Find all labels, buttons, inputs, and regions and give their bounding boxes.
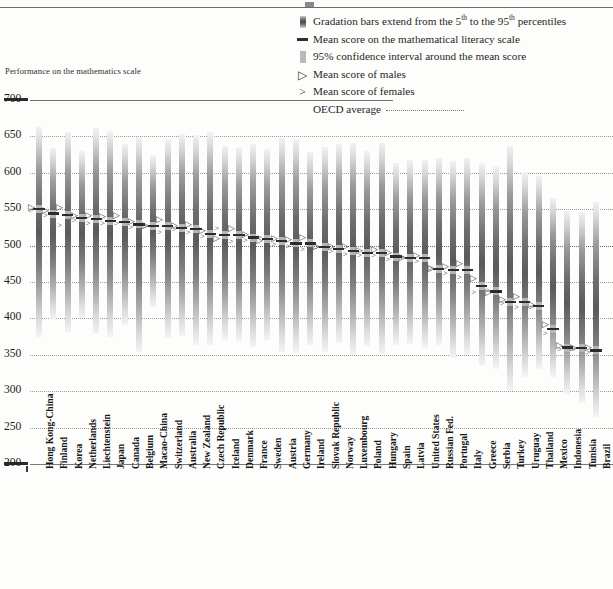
y-axis-tick-500: 500 (4, 238, 30, 251)
x-axis-label-iceland: Iceland (230, 439, 241, 469)
x-axis-label-poland: Poland (372, 440, 383, 469)
x-axis-label-switzerland: Switzerland (173, 420, 184, 469)
female-mean-marker: > (528, 303, 533, 312)
x-axis-label-luxembourg: Luxembourg (358, 416, 369, 469)
gradation-bar (150, 156, 156, 307)
gradation-bar (36, 127, 42, 337)
legend-label-gradation-bars: Gradation bars extend from the 5th to th… (312, 13, 566, 31)
legend-text-part-1: Gradation bars extend from the 5 (313, 15, 461, 27)
gradation-bar (50, 148, 56, 320)
female-mean-marker: > (57, 221, 62, 230)
mean-score-marker (419, 257, 430, 259)
gradation-bar (122, 144, 128, 325)
gradation-bar (222, 146, 228, 340)
female-mean-marker: > (328, 247, 333, 256)
female-mean-marker: > (186, 228, 191, 237)
mean-score-marker (533, 305, 544, 307)
mean-score-marker (490, 290, 501, 292)
female-mean-marker: > (314, 243, 319, 252)
female-mean-marker: > (557, 345, 562, 354)
x-axis-label-macao-china: Macao-China (158, 413, 169, 469)
legend-text-part-3: percentiles (515, 15, 566, 27)
x-axis-label-brazil: Brazil (601, 444, 612, 469)
gradation-bar (193, 135, 199, 345)
y-axis-tick-650: 650 (4, 128, 30, 141)
x-axis-label-portugal: Portugal (458, 433, 469, 469)
female-mean-marker: > (171, 225, 176, 234)
legend-item-males: ▷ Mean score of males (293, 66, 613, 84)
y-axis-tick-700: 700 (4, 92, 30, 105)
x-axis-label-indonesia: Indonesia (572, 429, 583, 469)
female-mean-marker: > (286, 242, 291, 251)
chart-plot-area: ▷>▷>▷>▷>▷>▷>▷>▷>▷>▷>▷>▷>▷>▷>▷>▷>▷>▷>▷>▷>… (30, 100, 613, 464)
gradation-bar (65, 132, 71, 331)
x-axis-label-norway: Norway (344, 436, 355, 469)
legend-label-confidence-interval: 95% confidence interval around the mean … (312, 48, 526, 66)
gradation-bar (250, 144, 256, 346)
female-mean-marker: > (471, 288, 476, 297)
x-axis-label-germany: Germany (301, 430, 312, 469)
y-axis-tick-550: 550 (4, 201, 30, 214)
x-axis-label-hungary: Hungary (387, 432, 398, 469)
female-glyph: > (299, 86, 306, 98)
legend-label-males: Mean score of males (312, 66, 406, 84)
gridline (30, 428, 613, 429)
legend-item-females: > Mean score of females (293, 83, 613, 101)
legend-item-gradation-bars: Gradation bars extend from the 5th to th… (293, 13, 613, 31)
gradation-bar (507, 146, 513, 391)
male-mean-marker: ▷ (156, 215, 163, 224)
x-axis-label-liechtenstein: Liechtenstein (101, 414, 112, 469)
mean-line-swatch (293, 31, 312, 49)
x-axis-label-australia: Australia (187, 431, 198, 469)
female-mean-marker: > (500, 299, 505, 308)
y-axis-tick-450: 450 (4, 274, 30, 287)
gridline (30, 391, 613, 392)
x-axis-label-thailand: Thailand (544, 432, 555, 469)
confidence-interval-swatch (293, 48, 312, 66)
female-mean-marker: > (486, 286, 491, 295)
male-mean-marker: ▷ (513, 292, 520, 301)
x-axis-label-new-zealand: New Zealand (201, 415, 212, 469)
gridline (30, 136, 613, 137)
x-axis-label-japan: Japan (115, 444, 126, 469)
legend-text-part-2: to the 95 (467, 15, 509, 27)
gradation-bar (165, 139, 171, 338)
female-mean-marker: > (114, 219, 119, 228)
male-mean-marker: ▷ (299, 233, 306, 242)
female-mean-marker: > (457, 273, 462, 282)
female-mean-marker: > (300, 245, 305, 254)
female-mean-marker: > (86, 219, 91, 228)
gradation-bar (407, 160, 413, 343)
x-axis-label-mexico: Mexico (558, 439, 569, 469)
female-mean-marker: > (514, 303, 519, 312)
female-mean-marker: > (214, 224, 219, 233)
gradation-bar (522, 172, 528, 377)
female-mean-marker: > (414, 257, 419, 266)
female-mean-marker: > (543, 329, 548, 338)
y-axis-title: Performance on the mathematics scale (5, 66, 141, 76)
gradation-bar (479, 163, 485, 366)
female-mean-marker: > (586, 348, 591, 357)
gradation-bar (264, 149, 270, 340)
x-axis-category-labels: Hong Kong-ChinaFinlandKoreaNetherlandsLi… (30, 468, 613, 589)
x-axis-label-turkey: Turkey (515, 439, 526, 469)
gradation-bar (564, 211, 570, 394)
female-mean-marker: > (271, 240, 276, 249)
gradation-bar (79, 151, 85, 318)
y-axis-tick-350: 350 (4, 347, 30, 360)
female-mean-marker: > (71, 216, 76, 225)
mean-score-marker (48, 212, 59, 214)
x-axis-label-spain: Spain (401, 446, 412, 469)
female-mean-marker: > (343, 250, 348, 259)
top-divider-tick (305, 2, 314, 7)
x-axis-label-canada: Canada (130, 437, 141, 469)
x-axis-label-serbia: Serbia (501, 442, 512, 469)
female-mean-marker: > (443, 269, 448, 278)
legend-item-mean-score: Mean score on the mathematical literacy … (293, 31, 613, 49)
x-axis-label-finland: Finland (58, 437, 69, 469)
x-axis-label-slovak-republic: Slovak Republic (330, 402, 341, 469)
gradation-bar (107, 131, 113, 337)
gradation-bar (464, 158, 470, 355)
mean-score-marker (462, 269, 473, 271)
gradation-bar (436, 158, 442, 346)
